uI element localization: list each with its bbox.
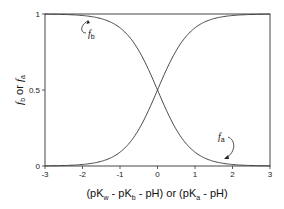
svg-text:fb: fb: [88, 28, 95, 40]
x-tick-label: -3: [41, 170, 49, 179]
y-tick-label: 0.5: [29, 86, 41, 95]
annotation-fb: fb: [82, 20, 95, 40]
y-tick-label: 1: [36, 10, 41, 19]
x-tick-label: 1: [193, 170, 198, 179]
x-tick-label: 2: [230, 170, 235, 179]
plot-curves: [45, 14, 270, 166]
x-tick-label: 0: [155, 170, 160, 179]
x-tick-label: -2: [79, 170, 87, 179]
y-axis-title: fb or fa: [13, 75, 26, 105]
chart-canvas: -3-2-1012300.51 fb fa fb or fa (pKw - pK…: [0, 0, 284, 209]
axis-ticks: -3-2-1012300.51: [29, 10, 273, 179]
curve-fa: [45, 14, 270, 166]
y-tick-label: 0: [36, 162, 41, 171]
x-axis-title: (pKw - pKb - pH) or (pKa - pH): [86, 187, 227, 201]
annotation-fa: fa: [218, 131, 234, 159]
x-tick-label: 3: [268, 170, 273, 179]
x-tick-label: -1: [116, 170, 124, 179]
svg-text:fa: fa: [218, 131, 225, 143]
